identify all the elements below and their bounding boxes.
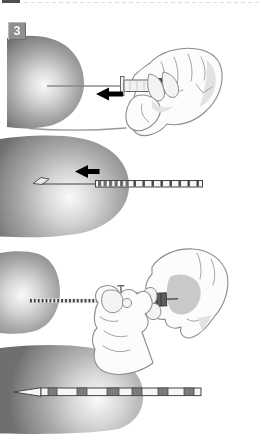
illustration-canvas: [0, 0, 261, 444]
arrow-left-icon: [96, 88, 123, 101]
marker-band-icon: [96, 181, 203, 188]
breast-shape: [0, 251, 60, 334]
hand-icon: [93, 285, 153, 374]
panel-needle-removed: [0, 136, 203, 238]
fingertip: [122, 298, 131, 307]
panel-withdraw-needle: [7, 36, 222, 136]
pinching-fingers: [102, 290, 124, 313]
crop-remnant-bar: [2, 0, 20, 3]
hookwire-icon: [14, 388, 202, 397]
wire-stub: [166, 299, 177, 300]
step-number-badge: 3: [8, 22, 26, 40]
skin-fold-line: [29, 128, 126, 130]
instruction-figure: 3: [0, 0, 261, 444]
breast-shape: [7, 36, 84, 129]
